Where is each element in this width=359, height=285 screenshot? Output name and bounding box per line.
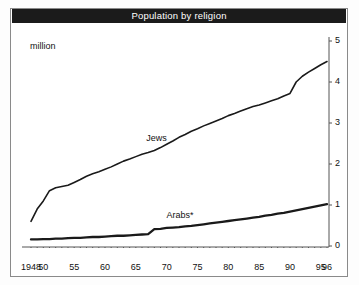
y-tick-label: 4 (335, 76, 340, 86)
y-tick-label: 0 (335, 240, 340, 250)
page-title: Population by religion (131, 11, 226, 21)
series-line-jews (31, 62, 327, 222)
x-tick-label: 90 (278, 262, 302, 272)
series-label-arabs: Arabs* (167, 210, 194, 220)
chart-screenshot: Population by religion million 012345 19… (0, 0, 359, 285)
x-tick-label: 75 (186, 262, 210, 272)
x-tick-label: 80 (216, 262, 240, 272)
x-tick-label: 55 (62, 262, 86, 272)
y-tick-label: 3 (335, 117, 340, 127)
x-tick-label: 50 (31, 262, 55, 272)
x-tick-label: 65 (124, 262, 148, 272)
x-tick-label: 70 (155, 262, 179, 272)
chart-title-bar: Population by religion (12, 9, 346, 23)
x-tick-label: 60 (93, 262, 117, 272)
x-tick-label: 96 (315, 262, 339, 272)
y-tick-label: 1 (335, 199, 340, 209)
y-tick-label: 5 (335, 35, 340, 45)
series-label-jews: Jews (146, 133, 167, 143)
y-tick-label: 2 (335, 158, 340, 168)
x-tick-label: 85 (247, 262, 271, 272)
